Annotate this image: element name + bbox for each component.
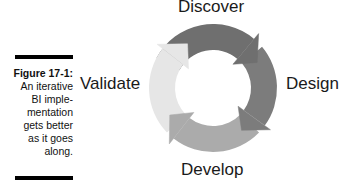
stage-label-validate: Validate (80, 74, 140, 94)
stage-label-develop: Develop (181, 160, 243, 180)
stage-label-discover: Discover (178, 0, 244, 17)
stage-label-design: Design (286, 74, 339, 94)
